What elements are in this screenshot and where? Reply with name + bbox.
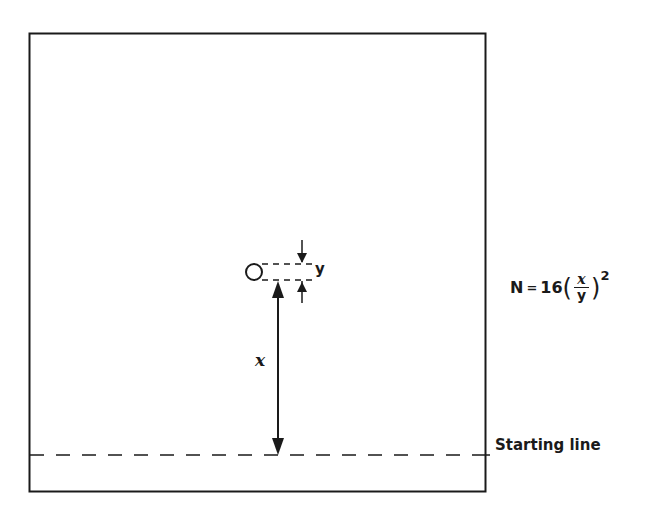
starting-line-label: Starting line [495,436,601,454]
x-label: x [255,350,265,370]
x-dimension-arrow [272,281,284,455]
formula-denominator: y [574,288,589,303]
formula-open-paren: ( [563,276,572,300]
formula-close-paren: ) [591,276,600,300]
formula-eq: = [526,280,537,295]
y-label: y [315,260,325,278]
formula-lhs: N [510,278,523,297]
formula: N = 16 ( x y ) 2 [510,272,610,303]
formula-coef: 16 [540,278,562,297]
tank-boundary [30,34,486,492]
formula-exponent: 2 [600,268,609,283]
object-circle [246,264,262,280]
y-dimension-arrows [297,240,307,303]
formula-numerator: x [574,272,588,288]
formula-fraction: x y [574,272,589,303]
